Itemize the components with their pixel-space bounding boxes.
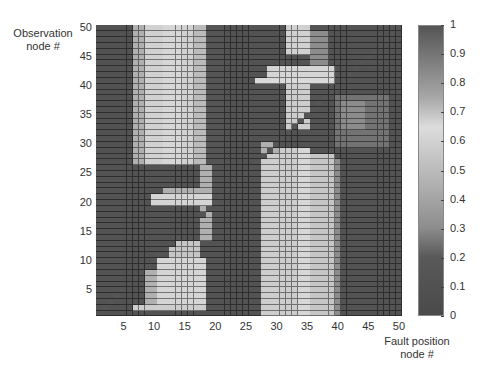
colorbar-tick-mark	[441, 25, 444, 26]
heatmap-cell	[396, 72, 403, 78]
heatmap-cell	[396, 299, 403, 305]
heatmap-cell	[396, 194, 403, 200]
heatmap-cell	[396, 281, 403, 287]
heatmap-cell	[396, 171, 403, 177]
heatmap-cell	[396, 83, 403, 89]
heatmap-cell	[396, 287, 403, 293]
colorbar-tick-label: 0.8	[450, 76, 465, 88]
colorbar-tick-mark	[441, 316, 444, 317]
colorbar-tick-label: 1	[450, 18, 456, 30]
colorbar-tick-label: 0.9	[450, 47, 465, 59]
heatmap-cell	[396, 153, 403, 159]
colorbar-tick-label: 0.7	[450, 105, 465, 117]
colorbar-tick-mark	[441, 83, 444, 84]
colorbar-tick-label: 0.1	[450, 280, 465, 292]
colorbar-tick-mark	[441, 171, 444, 172]
heatmap-cell	[396, 42, 403, 48]
heatmap-cell	[396, 304, 403, 310]
y-tick-label: 35	[66, 108, 92, 120]
heatmap-cell	[396, 37, 403, 43]
heatmap-cell	[396, 246, 403, 252]
heatmap-cell	[396, 205, 403, 211]
heatmap-cell	[396, 25, 403, 31]
x-tick-label: 45	[353, 320, 383, 332]
colorbar-tick-label: 0.6	[450, 134, 465, 146]
heatmap-cell	[396, 66, 403, 72]
heatmap-cell	[396, 235, 403, 241]
x-tick-label: 30	[262, 320, 292, 332]
heatmap-cell	[396, 229, 403, 235]
x-tick-label: 5	[109, 320, 139, 332]
heatmap-cell	[396, 176, 403, 182]
heatmap-cell	[396, 240, 403, 246]
x-tick-label: 50	[384, 320, 414, 332]
heatmap-cell	[396, 101, 403, 107]
x-tick-label: 20	[200, 320, 230, 332]
heatmap-plot-area	[96, 25, 402, 316]
x-tick-label: 15	[170, 320, 200, 332]
heatmap-cell	[396, 95, 403, 101]
heatmap-cell	[396, 182, 403, 188]
y-tick-label: 50	[66, 21, 92, 33]
colorbar-tick-mark	[441, 141, 444, 142]
heatmap-cell	[396, 269, 403, 275]
y-tick-label: 45	[66, 50, 92, 62]
y-tick-label: 30	[66, 137, 92, 149]
heatmap-cell	[396, 200, 403, 206]
heatmap-cell	[396, 77, 403, 83]
y-tick-label: 20	[66, 196, 92, 208]
heatmap-cell	[396, 188, 403, 194]
heatmap-cell	[396, 252, 403, 258]
heatmap-cell	[396, 165, 403, 171]
heatmap-cell	[396, 223, 403, 229]
heatmap-cell	[396, 112, 403, 118]
heatmap-cell	[396, 211, 403, 217]
heatmap-cell	[396, 275, 403, 281]
colorbar-tick-label: 0.4	[450, 193, 465, 205]
heatmap-cell	[396, 118, 403, 124]
y-tick-label: 40	[66, 79, 92, 91]
colorbar-tick-mark	[441, 258, 444, 259]
heatmap-cell	[396, 54, 403, 60]
heatmap-cell	[396, 130, 403, 136]
x-axis-label: Fault position node #	[372, 335, 462, 361]
heatmap-cell	[396, 136, 403, 142]
heatmap-cell	[396, 293, 403, 299]
heatmap-cell	[396, 159, 403, 165]
heatmap-cell	[396, 48, 403, 54]
colorbar-tick-mark	[441, 229, 444, 230]
colorbar-tick-mark	[441, 112, 444, 113]
y-tick-label: 10	[66, 254, 92, 266]
heatmap-cell	[396, 106, 403, 112]
x-tick-label: 25	[231, 320, 261, 332]
heatmap-cell	[396, 31, 403, 37]
colorbar-tick-mark	[441, 200, 444, 201]
x-tick-label: 40	[323, 320, 353, 332]
y-tick-label: 15	[66, 225, 92, 237]
heatmap-cell	[396, 264, 403, 270]
heatmap-cell	[396, 310, 403, 316]
heatmap-cell	[396, 217, 403, 223]
heatmap-cell	[396, 147, 403, 153]
heatmap-cell	[396, 89, 403, 95]
heatmap-cell	[396, 124, 403, 130]
colorbar-tick-label: 0.5	[450, 164, 465, 176]
heatmap-cell	[396, 258, 403, 264]
x-tick-label: 10	[139, 320, 169, 332]
colorbar-tick-label: 0.3	[450, 222, 465, 234]
heatmap-cell	[396, 141, 403, 147]
colorbar-tick-mark	[441, 287, 444, 288]
y-tick-label: 5	[66, 283, 92, 295]
y-tick-label: 25	[66, 166, 92, 178]
colorbar-tick-label: 0.2	[450, 251, 465, 263]
heatmap-cell	[396, 60, 403, 66]
x-tick-label: 35	[292, 320, 322, 332]
colorbar-tick-mark	[441, 54, 444, 55]
colorbar-tick-label: 0	[450, 309, 456, 321]
